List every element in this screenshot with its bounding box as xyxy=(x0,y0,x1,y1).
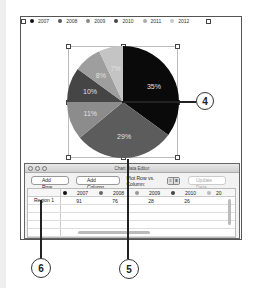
chart-data-editor-window: Chart Data Editor Add Row Add Column Plo… xyxy=(24,163,240,239)
grid-header-row: 2007 2008 2009 2010 20 xyxy=(28,189,235,197)
selection-handle[interactable] xyxy=(21,19,26,24)
data-cell[interactable]: 91 xyxy=(61,198,97,204)
plot-orientation-toggle[interactable]: ≡ Ⅲ xyxy=(167,177,180,185)
column-label: 2007 xyxy=(77,190,88,196)
data-cell[interactable]: 28 xyxy=(133,198,169,204)
editor-toolbar: Add Row Add Column Plot Row vs. Column: … xyxy=(25,173,239,188)
callout-number: 4 xyxy=(202,96,208,107)
legend-item: 2007 xyxy=(30,18,49,24)
row-header[interactable] xyxy=(28,229,61,236)
slice-label: 10% xyxy=(83,88,97,95)
slice-label: 35% xyxy=(147,83,161,90)
callout-line xyxy=(122,101,196,103)
column-label: 2009 xyxy=(149,190,160,196)
legend-label: 2010 xyxy=(122,18,133,24)
grid-corner xyxy=(28,189,61,196)
column-header[interactable]: 2007 xyxy=(61,190,97,196)
legend-label: 2007 xyxy=(38,18,49,24)
data-cell[interactable]: 26 xyxy=(169,198,205,204)
slice-label: 29% xyxy=(117,133,131,140)
legend-label: 2011 xyxy=(151,18,162,24)
legend-swatch-icon xyxy=(170,19,174,23)
add-row-button[interactable]: Add Row xyxy=(31,176,69,185)
table-row: Region 1 91 76 28 26 xyxy=(28,197,235,205)
row-header[interactable] xyxy=(28,205,61,212)
legend-item: 2012 xyxy=(170,18,189,24)
chart-legend[interactable]: 2007 2008 2009 2010 2011 2012 xyxy=(20,16,242,26)
legend-item: 2011 xyxy=(143,18,162,24)
legend-label: 2009 xyxy=(94,18,105,24)
slice-label: 7% xyxy=(110,65,120,72)
horizontal-scrollbar[interactable] xyxy=(78,231,150,234)
table-row xyxy=(28,205,235,213)
legend-swatch-icon xyxy=(30,19,34,23)
callout-5: 5 xyxy=(119,259,139,279)
window-title: Chart Data Editor xyxy=(25,166,239,171)
series-color-icon[interactable] xyxy=(207,191,211,195)
column-label: 20 xyxy=(216,190,222,196)
legend-item: 2010 xyxy=(114,18,133,24)
series-color-icon[interactable] xyxy=(171,191,175,195)
slice-label: 11% xyxy=(84,110,98,117)
series-color-icon[interactable] xyxy=(99,191,103,195)
legend-swatch-icon xyxy=(143,19,147,23)
legend-item: 2008 xyxy=(58,18,77,24)
callout-4: 4 xyxy=(196,92,214,110)
table-row xyxy=(28,221,235,229)
update-data-button[interactable]: Update Data xyxy=(188,176,226,185)
callout-6: 6 xyxy=(31,258,51,278)
row-header[interactable]: Region 1 xyxy=(28,197,61,204)
add-column-button[interactable]: Add Column xyxy=(76,176,120,185)
page-margin xyxy=(0,0,6,288)
callout-line xyxy=(127,159,129,259)
legend-swatch-icon xyxy=(114,19,118,23)
series-color-icon[interactable] xyxy=(135,191,139,195)
vertical-scrollbar[interactable] xyxy=(228,199,231,225)
data-grid[interactable]: 2007 2008 2009 2010 20 Region 1 91 76 28… xyxy=(27,188,236,238)
column-header[interactable]: 2009 xyxy=(133,190,169,196)
legend-item: 2009 xyxy=(86,18,105,24)
selection-handle[interactable] xyxy=(206,19,211,24)
legend-swatch-icon xyxy=(86,19,90,23)
column-header[interactable]: 2010 xyxy=(169,190,205,196)
window-titlebar[interactable]: Chart Data Editor xyxy=(25,164,239,173)
callout-number: 5 xyxy=(126,264,132,275)
legend-label: 2008 xyxy=(66,18,77,24)
row-header[interactable] xyxy=(28,213,61,220)
row-header[interactable] xyxy=(28,221,61,228)
column-label: 2008 xyxy=(113,190,124,196)
plot-row-column-label: Plot Row vs. Column: xyxy=(127,175,164,187)
table-row xyxy=(28,213,235,221)
column-label: 2010 xyxy=(185,190,196,196)
callout-number: 6 xyxy=(38,263,44,274)
plot-columns-icon[interactable]: Ⅲ xyxy=(174,178,179,184)
callout-line xyxy=(40,200,42,258)
series-color-icon[interactable] xyxy=(63,191,67,195)
slice-label: 8% xyxy=(96,72,106,79)
column-header[interactable]: 20 xyxy=(205,190,225,196)
legend-swatch-icon xyxy=(58,19,62,23)
legend-label: 2012 xyxy=(178,18,189,24)
